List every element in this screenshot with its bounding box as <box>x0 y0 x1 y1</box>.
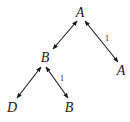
edge-left-to-leftleft <box>17 67 41 98</box>
edge-root-to-right <box>85 21 118 62</box>
node-right: A <box>116 63 126 78</box>
edge-root-to-left <box>53 21 77 49</box>
node-leftright: B <box>65 100 74 115</box>
edge-label-root-right: 1 <box>105 34 109 43</box>
edge-label-left-leftright: 1 <box>60 74 64 83</box>
node-leftleft: D <box>6 100 17 115</box>
tree-diagram: 1 1 A B A D B <box>0 0 130 122</box>
node-root: A <box>75 5 85 20</box>
node-left: B <box>41 50 50 65</box>
edge-left-to-leftright <box>46 67 68 98</box>
